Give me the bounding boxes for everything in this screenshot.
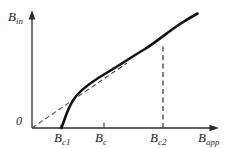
tick-label-bc2: Bc2 [150, 131, 167, 144]
x-axis-label: Bapp [198, 131, 220, 144]
figure-canvas [0, 0, 235, 148]
figure-root: Bin 0 Bc1 Bc Bc2 Bapp [0, 0, 235, 148]
tick-label-bc2-subscript: c2 [158, 137, 167, 147]
tick-label-bc: Bc [95, 131, 107, 144]
origin-label: 0 [16, 115, 22, 127]
y-axis-label: Bin [8, 10, 23, 23]
ideal-linear-asymptote [32, 63, 127, 128]
tick-label-bc1: Bc1 [54, 131, 71, 144]
tick-label-bc1-symbol: B [54, 130, 62, 145]
x-axis-label-symbol: B [198, 130, 206, 145]
internal-field-curve [62, 14, 198, 129]
tick-label-bc1-subscript: c1 [62, 137, 71, 147]
tick-label-bc-subscript: c [103, 137, 107, 147]
y-axis-label-subscript: in [16, 16, 23, 26]
tick-label-bc2-symbol: B [150, 130, 158, 145]
x-axis-label-subscript: app [206, 137, 220, 147]
tick-label-bc-symbol: B [95, 130, 103, 145]
y-axis-arrowhead [29, 10, 36, 20]
y-axis-label-symbol: B [8, 9, 16, 24]
